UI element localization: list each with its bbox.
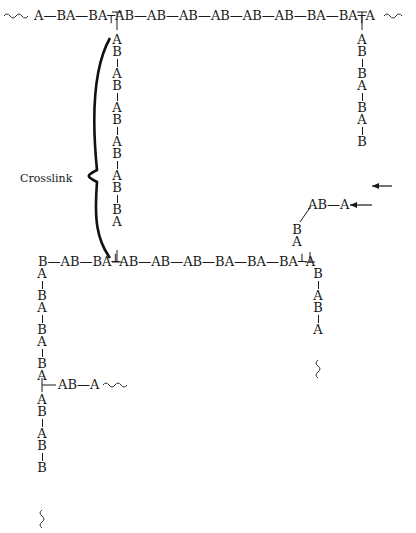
- left-lower-branch: A B A B B: [35, 394, 49, 474]
- middle-chain: B—AB—BA┴AB—AB—AB—BA—BA—BA┴A: [38, 255, 315, 269]
- crosslink-brace-icon: [89, 38, 110, 258]
- wavy-end-icon: [316, 360, 320, 378]
- crosslink-chain: A B A B A B A B A B B A: [110, 34, 124, 228]
- wavy-end-icon: [40, 510, 44, 528]
- wavy-end-icon: [103, 383, 127, 387]
- top-chain: A—BA—BA┬AB—AB—AB—AB—AB—AB—BA—BA┬A: [34, 9, 375, 23]
- upper-branch: AB—A: [308, 198, 349, 212]
- left-branch: A B A B A B A: [35, 268, 49, 382]
- upper-branch-stem: B A: [290, 224, 304, 248]
- lower-right-branch: B A B A: [311, 268, 325, 336]
- top-right-branch: A B B A B A B: [355, 34, 369, 148]
- crosslink-label: Crosslink: [20, 172, 72, 185]
- wavy-end-icon: [384, 14, 402, 18]
- left-side-chain: AB—A: [58, 378, 99, 392]
- wavy-end-icon: [4, 14, 28, 18]
